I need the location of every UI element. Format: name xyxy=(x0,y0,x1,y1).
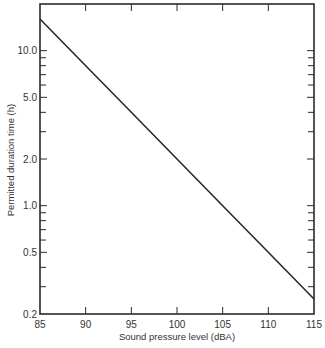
y-tick-labels: 0.20.51.02.05.010.0 xyxy=(18,45,38,319)
x-tick-label: 95 xyxy=(126,319,138,330)
y-tick-label: 0.2 xyxy=(23,309,37,320)
x-tick-label: 115 xyxy=(306,319,322,330)
duration-line xyxy=(40,19,314,299)
x-tick-label: 100 xyxy=(169,319,186,330)
y-tick-label: 10.0 xyxy=(18,45,38,56)
y-tick-label: 2.0 xyxy=(23,154,37,165)
x-tick-label: 110 xyxy=(260,319,276,330)
y-tick-label: 1.0 xyxy=(23,200,37,211)
y-tick-label: 5.0 xyxy=(23,92,37,103)
chart: 859095100105110115 0.20.51.02.05.010.0 S… xyxy=(0,0,325,348)
x-tick-label: 105 xyxy=(214,319,231,330)
y-tick-label: 0.5 xyxy=(23,247,37,258)
y-axis-title: Permitted duration time (h) xyxy=(5,104,16,216)
x-tick-labels: 859095100105110115 xyxy=(34,319,322,330)
x-tick-label: 90 xyxy=(80,319,92,330)
x-axis-title: Sound pressure level (dBA) xyxy=(119,331,235,342)
x-tick-label: 85 xyxy=(34,319,46,330)
